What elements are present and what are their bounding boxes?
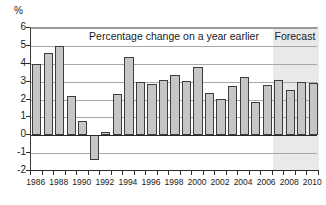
y-axis-tick-mark [26, 99, 30, 100]
zero-baseline [31, 135, 317, 136]
x-axis-tick-mark [88, 170, 89, 175]
x-axis-tick-mark [318, 170, 319, 175]
bar [182, 81, 191, 136]
bar [44, 53, 53, 135]
gridline [31, 28, 317, 29]
bar [170, 75, 179, 135]
bar [193, 67, 202, 135]
x-axis-tick-mark [134, 170, 135, 175]
x-axis-tick-mark [283, 170, 284, 175]
x-axis-tick-mark [249, 170, 250, 175]
y-axis-tick-label: -2 [8, 165, 26, 175]
forecast-annotation-label: Forecast [272, 31, 318, 42]
y-axis-tick-label: 2 [8, 94, 26, 104]
bar [216, 99, 225, 136]
x-axis-tick-mark [214, 170, 215, 175]
bar [263, 85, 272, 135]
bar [32, 64, 41, 136]
x-axis-tick-mark [306, 170, 307, 175]
x-axis-tick-mark [122, 170, 123, 175]
x-axis-tick-mark [272, 170, 273, 175]
plot-area [30, 27, 318, 170]
bar [228, 86, 237, 135]
y-axis-tick-mark [26, 134, 30, 135]
bar [297, 82, 306, 136]
bar [67, 96, 76, 135]
y-axis-unit-label: % [14, 6, 23, 16]
y-axis-tick-label: 5 [8, 40, 26, 50]
x-axis-tick-mark [237, 170, 238, 175]
bar-chart: % Percentage change on a year earlier Fo… [0, 0, 326, 205]
y-axis-tick-label: 6 [8, 22, 26, 32]
y-axis-tick-label: 0 [8, 129, 26, 139]
bar [309, 83, 318, 136]
bar [286, 90, 295, 136]
bar [113, 94, 122, 135]
x-axis-tick-mark [180, 170, 181, 175]
bar [90, 135, 99, 160]
x-axis-tick-mark [42, 170, 43, 175]
bar [240, 77, 249, 135]
x-axis-tick-mark [168, 170, 169, 175]
bar [147, 84, 156, 135]
y-axis-tick-label: -1 [8, 147, 26, 157]
x-axis-tick-mark [260, 170, 261, 175]
y-axis-tick-mark [26, 27, 30, 28]
y-axis-tick-mark [26, 81, 30, 82]
x-axis-tick-mark [65, 170, 66, 175]
x-axis-tick-mark [157, 170, 158, 175]
x-axis-tick-label: 2010 [299, 178, 325, 187]
x-axis-tick-mark [76, 170, 77, 175]
y-axis-tick-mark [26, 152, 30, 153]
gridline [31, 153, 317, 154]
x-axis-tick-mark [53, 170, 54, 175]
bar [159, 80, 168, 135]
x-axis-tick-mark [295, 170, 296, 175]
y-axis-tick-label: 1 [8, 111, 26, 121]
y-axis-tick-label: 3 [8, 76, 26, 86]
gridline [31, 64, 317, 65]
bar [55, 46, 64, 135]
x-axis-tick-mark [30, 170, 31, 175]
y-axis-tick-mark [26, 45, 30, 46]
x-axis-line [30, 170, 318, 171]
x-axis-tick-mark [99, 170, 100, 175]
bar [136, 82, 145, 136]
y-axis-tick-mark [26, 116, 30, 117]
bar [78, 121, 87, 135]
x-axis-tick-mark [226, 170, 227, 175]
x-axis-tick-mark [191, 170, 192, 175]
bar [251, 102, 260, 135]
x-axis-tick-mark [203, 170, 204, 175]
bar [274, 80, 283, 135]
x-axis-tick-mark [145, 170, 146, 175]
y-axis-tick-mark [26, 63, 30, 64]
bar [205, 93, 214, 135]
bar [124, 57, 133, 135]
gridline [31, 46, 317, 47]
y-axis-tick-label: 4 [8, 58, 26, 68]
x-axis-tick-mark [111, 170, 112, 175]
